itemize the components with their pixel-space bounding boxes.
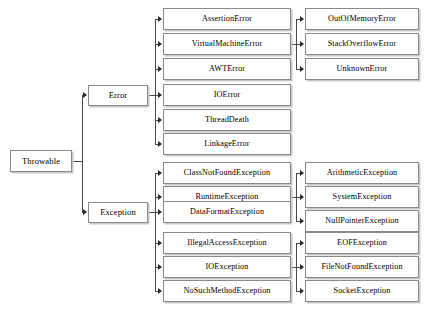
- arrowhead-linkageerror: [158, 141, 162, 147]
- node-dataformatexception: DataFormatException: [163, 201, 291, 223]
- arrowhead-unknownerror: [300, 66, 304, 72]
- arrowhead-ioerror: [158, 92, 162, 98]
- arrowhead-nullpointerexception: [300, 218, 304, 224]
- node-ioerror-label: IOError: [214, 91, 241, 99]
- node-throwable: Throwable: [10, 150, 72, 172]
- arrowhead-classnotfoundexception: [158, 170, 162, 176]
- node-illegalaccessexception: IllegalAccessException: [163, 232, 291, 254]
- node-ioexception-label: IOException: [206, 263, 249, 271]
- node-exception-label: Exception: [100, 208, 136, 217]
- node-virtualmachineerror-label: VirtualMachineError: [192, 40, 263, 48]
- arrowhead-eofexception: [300, 240, 304, 246]
- node-socketexception-label: SocketException: [334, 287, 391, 295]
- node-error: Error: [88, 85, 148, 106]
- arrowhead-stackoverflowerror: [300, 41, 304, 47]
- connector-exception-trunk: [155, 173, 156, 291]
- arrowhead-illegalaccessexception: [158, 240, 162, 246]
- node-exception: Exception: [88, 202, 148, 223]
- node-assertionerror: AssertionError: [163, 8, 291, 30]
- node-eofexception-label: EOFException: [337, 239, 387, 247]
- node-nosuchmethodexception: NoSuchMethodException: [163, 280, 291, 302]
- node-filenotfoundexception: FileNotFoundException: [305, 256, 419, 278]
- arrowhead-error: [83, 92, 87, 98]
- node-classnotfoundexception-label: ClassNotFoundException: [184, 169, 270, 177]
- node-assertionerror-label: AssertionError: [202, 15, 252, 23]
- arrowhead-awterror: [158, 66, 162, 72]
- node-nullpointerexception: NullPointerException: [305, 210, 419, 232]
- connector-error-trunk: [155, 19, 156, 144]
- arrowhead-dataformatexception: [158, 209, 162, 215]
- node-socketexception: SocketException: [305, 280, 419, 302]
- node-error-label: Error: [109, 91, 128, 100]
- node-classnotfoundexception: ClassNotFoundException: [163, 162, 291, 184]
- node-filenotfoundexception-label: FileNotFoundException: [321, 263, 402, 271]
- node-arithmeticexception: ArithmeticException: [305, 162, 419, 184]
- node-stackoverflowerror-label: StackOverflowError: [328, 40, 397, 48]
- arrowhead-virtualmachineerror: [158, 41, 162, 47]
- node-ioerror: IOError: [163, 84, 291, 106]
- node-virtualmachineerror: VirtualMachineError: [163, 33, 291, 55]
- arrowhead-outofmemoryerror: [300, 16, 304, 22]
- node-runtimeexception-label: RuntimeException: [196, 193, 259, 201]
- arrowhead-socketexception: [300, 288, 304, 294]
- node-nullpointerexception-label: NullPointerException: [325, 217, 398, 225]
- arrowhead-ioexception: [158, 264, 162, 270]
- node-systemexception-label: SystemException: [333, 193, 392, 201]
- node-awterror: AWTError: [163, 58, 291, 80]
- node-threaddeath: ThreadDeath: [163, 109, 291, 131]
- throwable-hierarchy-diagram: Throwable Error Exception AssertionError…: [0, 0, 429, 317]
- node-unknownerror-label: UnknownError: [337, 65, 388, 73]
- node-outofmemoryerror: OutOfMemoryError: [305, 8, 419, 30]
- node-ioexception: IOException: [163, 256, 291, 278]
- node-unknownerror: UnknownError: [305, 58, 419, 80]
- node-outofmemoryerror-label: OutOfMemoryError: [328, 15, 396, 23]
- node-arithmeticexception-label: ArithmeticException: [327, 169, 398, 177]
- node-throwable-label: Throwable: [22, 157, 60, 166]
- node-linkageerror: LinkageError: [163, 133, 291, 155]
- arrowhead-exception: [83, 209, 87, 215]
- arrowhead-nosuchmethodexception: [158, 288, 162, 294]
- arrowhead-runtimeexception: [158, 194, 162, 200]
- node-linkageerror-label: LinkageError: [204, 140, 249, 148]
- node-dataformatexception-label: DataFormatException: [190, 208, 264, 216]
- arrowhead-arithmeticexception: [300, 170, 304, 176]
- arrowhead-assertionerror: [158, 16, 162, 22]
- arrowhead-threaddeath: [158, 117, 162, 123]
- node-illegalaccessexception-label: IllegalAccessException: [187, 239, 267, 247]
- connector-throwable-trunk: [82, 95, 83, 212]
- connector-throwable-stem: [72, 161, 82, 162]
- node-awterror-label: AWTError: [209, 65, 245, 73]
- arrowhead-filenotfoundexception: [300, 264, 304, 270]
- arrowhead-systemexception: [300, 194, 304, 200]
- node-eofexception: EOFException: [305, 232, 419, 254]
- node-stackoverflowerror: StackOverflowError: [305, 33, 419, 55]
- node-nosuchmethodexception-label: NoSuchMethodException: [183, 287, 270, 295]
- node-systemexception: SystemException: [305, 186, 419, 208]
- node-threaddeath-label: ThreadDeath: [205, 116, 249, 124]
